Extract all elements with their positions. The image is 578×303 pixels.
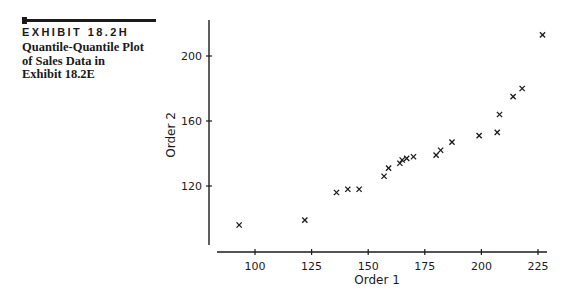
data-point-x-marker	[302, 218, 307, 223]
y-axis-label: Order 2	[164, 112, 178, 158]
y-axis: 120160200	[181, 20, 212, 245]
data-points	[237, 32, 546, 227]
x-tick-label: 175	[414, 260, 435, 273]
data-point-x-marker	[540, 32, 545, 37]
x-tick-label: 100	[245, 260, 266, 273]
data-point-x-marker	[386, 166, 391, 171]
qq-plot: 120160200 100125150175200225 Order 1 Ord…	[0, 0, 578, 303]
x-tick-label: 200	[471, 260, 492, 273]
data-point-x-marker	[357, 187, 362, 192]
x-tick-label: 150	[358, 260, 379, 273]
data-point-x-marker	[495, 130, 500, 135]
y-tick-label: 160	[181, 115, 202, 128]
data-point-x-marker	[477, 133, 482, 138]
y-tick-label: 200	[181, 50, 202, 63]
data-point-x-marker	[449, 140, 454, 145]
y-tick-label: 120	[181, 180, 202, 193]
data-point-x-marker	[434, 153, 439, 158]
data-point-x-marker	[411, 154, 416, 159]
x-axis-label: Order 1	[354, 273, 400, 287]
x-tick-label: 225	[528, 260, 549, 273]
data-point-x-marker	[381, 174, 386, 179]
data-point-x-marker	[334, 190, 339, 195]
x-axis: 100125150175200225	[217, 249, 549, 273]
data-point-x-marker	[438, 148, 443, 153]
data-point-x-marker	[404, 156, 409, 161]
x-tick-label: 125	[301, 260, 322, 273]
data-point-x-marker	[237, 222, 242, 227]
data-point-x-marker	[345, 187, 350, 192]
data-point-x-marker	[510, 94, 515, 99]
data-point-x-marker	[520, 86, 525, 91]
data-point-x-marker	[497, 112, 502, 117]
